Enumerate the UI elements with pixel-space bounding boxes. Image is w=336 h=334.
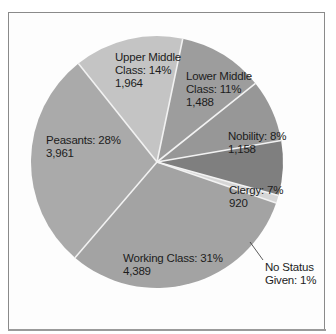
label-line: 1,158: [228, 143, 286, 156]
label-line: Given: 1%: [265, 274, 316, 287]
label-line: Peasants: 28%: [46, 134, 121, 147]
label-clergy: Clergy: 7% 920: [229, 184, 283, 210]
label-lower-middle: Lower Middle Class: 11% 1,488: [186, 70, 252, 109]
label-value: 1,488: [186, 96, 252, 109]
leader-line-no-status: [250, 242, 263, 260]
label-line: Upper Middle: [115, 51, 181, 64]
label-line: 4,389: [123, 265, 223, 278]
label-line: Working Class: 31%: [123, 252, 223, 265]
label-line: Clergy: 7%: [229, 184, 283, 197]
label-line: Nobility: 8%: [228, 130, 286, 143]
label-line: 920: [229, 197, 283, 210]
label-value: 1,964: [115, 77, 181, 90]
label-line: Class: 11%: [186, 83, 252, 96]
label-upper-middle: Upper Middle Class: 14% 1,964: [115, 51, 181, 90]
label-working-class: Working Class: 31% 4,389: [123, 252, 223, 278]
label-line: No Status: [265, 261, 316, 274]
label-peasants: Peasants: 28% 3,961: [46, 134, 121, 160]
label-nobility: Nobility: 8% 1,158: [228, 130, 286, 156]
label-line: 3,961: [46, 147, 121, 160]
label-line: Class: 14%: [115, 64, 181, 77]
label-no-status: No Status Given: 1%: [265, 261, 316, 287]
label-line: Lower Middle: [186, 70, 252, 83]
